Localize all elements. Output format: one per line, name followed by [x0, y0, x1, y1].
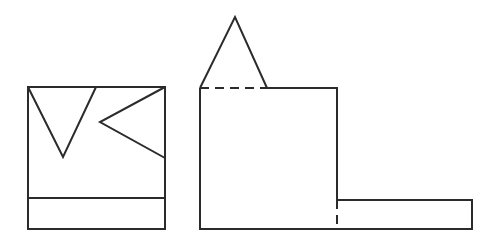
left-triangle-pointing-left: [100, 87, 165, 158]
right-strip: [337, 200, 472, 229]
diagram-canvas: [0, 0, 489, 244]
left-view: [28, 87, 165, 229]
right-top-triangle: [200, 17, 267, 88]
right-view: [200, 17, 472, 229]
left-outer-square: [28, 87, 165, 229]
right-rect-left-bottom-edge: [200, 88, 337, 229]
right-rect-top-right-edge: [267, 88, 337, 200]
left-triangle-down: [28, 87, 96, 157]
